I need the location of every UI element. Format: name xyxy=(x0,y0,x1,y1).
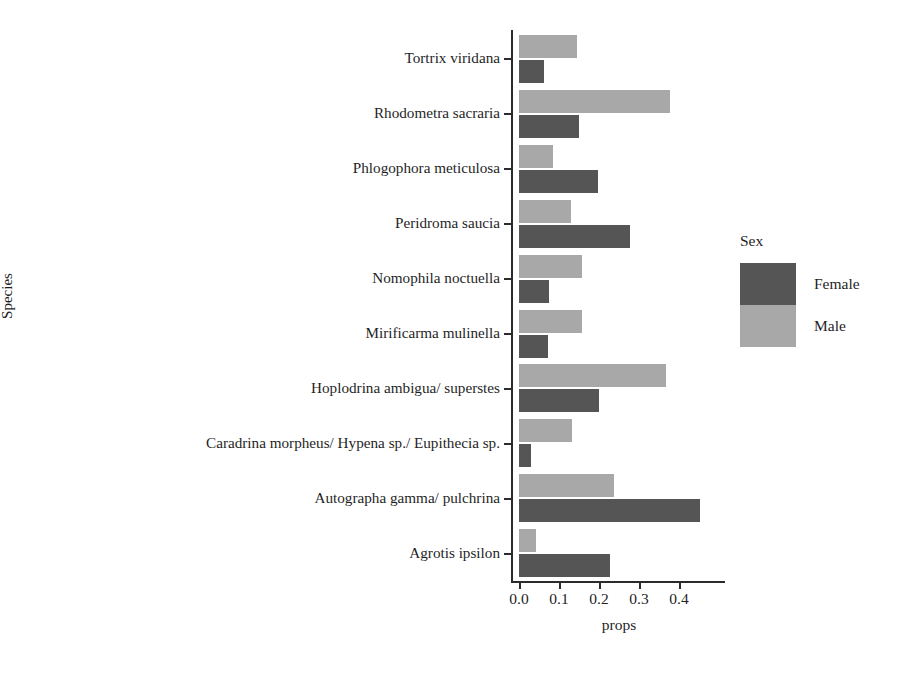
x-axis-tick xyxy=(519,582,521,589)
bar-male xyxy=(519,364,666,387)
x-axis-tick xyxy=(559,582,561,589)
y-axis-tick xyxy=(504,498,511,500)
y-axis-category-label: Phlogophora meticulosa xyxy=(353,160,500,175)
y-axis-tick xyxy=(504,553,511,555)
bar-male xyxy=(519,310,582,333)
bar-female xyxy=(519,554,610,577)
y-axis-category-label: Hoplodrina ambigua/ superstes xyxy=(311,380,500,395)
bar-female xyxy=(519,115,579,138)
bar-chart-figure: Species 0.00.10.20.30.4Tortrix viridanaR… xyxy=(0,0,912,678)
bar-female xyxy=(519,280,549,303)
legend-swatch-male xyxy=(740,305,796,347)
y-axis-category-label: Caradrina morpheus/ Hypena sp./ Eupithec… xyxy=(206,435,500,450)
x-axis-tick xyxy=(599,582,601,589)
x-axis-tick-label: 0.4 xyxy=(649,590,709,608)
y-axis-tick xyxy=(504,443,511,445)
bar-male xyxy=(519,419,572,442)
y-axis-tick xyxy=(504,113,511,115)
bar-male xyxy=(519,529,536,552)
bar-male xyxy=(519,200,571,223)
bar-female xyxy=(519,335,548,358)
legend-title: Sex xyxy=(740,232,860,250)
legend-label-male: Male xyxy=(814,317,846,335)
bar-female xyxy=(519,60,544,83)
bar-female xyxy=(519,499,700,522)
bar-female xyxy=(519,170,598,193)
y-axis-category-label: Nomophila noctuella xyxy=(372,270,500,285)
legend-item-male[interactable]: Male xyxy=(740,305,860,347)
bar-male xyxy=(519,255,582,278)
y-axis-title: Species xyxy=(0,236,16,356)
x-axis-tick xyxy=(639,582,641,589)
y-axis-category-label: Peridroma saucia xyxy=(395,215,500,230)
bar-female xyxy=(519,444,531,467)
y-axis-tick xyxy=(504,58,511,60)
y-axis-category-label: Mirificarma mulinella xyxy=(365,325,500,340)
bar-female xyxy=(519,389,599,412)
x-axis-line xyxy=(511,581,725,583)
y-axis-line xyxy=(511,30,513,583)
y-axis-tick xyxy=(504,278,511,280)
y-axis-category-label: Rhodometra sacraria xyxy=(374,105,500,120)
x-axis-tick xyxy=(679,582,681,589)
legend-label-female: Female xyxy=(814,275,860,293)
bar-female xyxy=(519,225,630,248)
y-axis-category-label: Tortrix viridana xyxy=(404,50,500,65)
y-axis-tick xyxy=(504,333,511,335)
y-axis-category-label: Agrotis ipsilon xyxy=(409,545,500,560)
bar-male xyxy=(519,474,614,497)
x-axis-title: props xyxy=(519,616,719,634)
bar-male xyxy=(519,90,670,113)
y-axis-category-label: Autographa gamma/ pulchrina xyxy=(314,490,500,505)
y-axis-tick xyxy=(504,388,511,390)
legend: Sex FemaleMale xyxy=(740,232,860,347)
y-axis-tick xyxy=(504,168,511,170)
y-axis-tick xyxy=(504,223,511,225)
legend-swatch-female xyxy=(740,263,796,305)
legend-item-female[interactable]: Female xyxy=(740,263,860,305)
legend-entries: FemaleMale xyxy=(740,263,860,347)
bar-male xyxy=(519,145,553,168)
bar-male xyxy=(519,35,577,58)
